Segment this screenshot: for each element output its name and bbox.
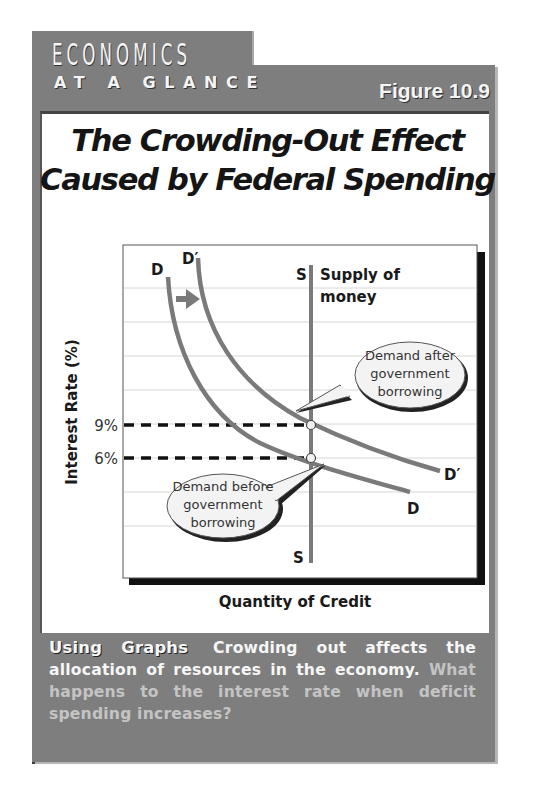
label-d-top: D bbox=[151, 261, 163, 279]
tick-9-percent: 9% bbox=[94, 417, 118, 435]
before-text-2: government bbox=[183, 497, 262, 512]
after-text-1: Demand after bbox=[365, 348, 456, 363]
label-supply-line2: money bbox=[320, 288, 377, 306]
label-d-end: D bbox=[407, 500, 419, 518]
after-text-2: government bbox=[370, 366, 449, 381]
label-supply-line1: Supply of bbox=[320, 266, 400, 284]
equilibrium-point-9 bbox=[307, 421, 316, 430]
after-text-3: borrowing bbox=[377, 384, 442, 399]
equilibrium-point-6 bbox=[307, 454, 316, 463]
caption-lead: Using Graphs bbox=[49, 638, 188, 657]
before-text-1: Demand before bbox=[172, 479, 273, 494]
label-s-top: S bbox=[296, 266, 307, 284]
x-axis-label: Quantity of Credit bbox=[219, 593, 371, 611]
tick-6-percent: 6% bbox=[94, 450, 118, 468]
y-axis-label: Interest Rate (%) bbox=[63, 339, 81, 484]
label-d-prime-end: D′ bbox=[444, 466, 460, 484]
caption: Using Graphs Crowding out affects the al… bbox=[49, 637, 476, 725]
label-s-bottom: S bbox=[293, 549, 304, 567]
before-text-3: borrowing bbox=[190, 515, 255, 530]
label-d-prime-top: D′ bbox=[182, 250, 198, 268]
